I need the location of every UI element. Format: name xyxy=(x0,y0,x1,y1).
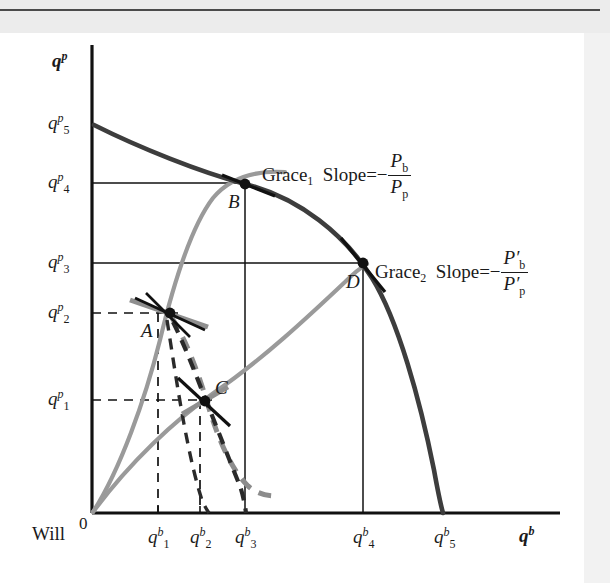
grace1-name: Grace xyxy=(262,164,307,185)
point-marker-a[interactable] xyxy=(165,308,176,319)
x-tick-label-qb4: qb4 xyxy=(353,526,375,550)
y-axis-title: qp xyxy=(52,50,68,70)
point-marker-d[interactable] xyxy=(358,258,369,269)
dashed-gray-curve-outer xyxy=(172,318,275,496)
point-label-b: B xyxy=(228,192,240,211)
point-markers-group xyxy=(165,179,369,407)
annotation-grace1: Grace1 Slope=−PbPp xyxy=(262,152,411,201)
grace2-subscript: 2 xyxy=(420,271,426,285)
x-tick-label-qb2: qb2 xyxy=(190,526,212,550)
point-marker-b[interactable] xyxy=(240,179,251,190)
grace2-denominator: P′p xyxy=(501,273,529,297)
y-tick-label-qp2: qp2 xyxy=(48,301,70,325)
grace2-name: Grace xyxy=(375,261,420,282)
gray-curve-through-a-b xyxy=(93,172,285,512)
dashed-dark-curve-inner xyxy=(167,320,209,513)
x-tick-label-qb1: qb1 xyxy=(148,526,170,550)
origin-label: 0 xyxy=(79,515,88,532)
corner-label-will: Will xyxy=(32,524,65,543)
grace2-numerator: P′b xyxy=(501,248,529,273)
grace1-subscript: 1 xyxy=(307,174,313,188)
y-tick-label-qp1: qp1 xyxy=(48,388,70,412)
point-label-a: A xyxy=(141,321,153,340)
page-canvas: qp qb 0 Will qp1 qp2 qp3 qp4 qp5 qb1 qb2… xyxy=(0,0,610,583)
grace1-denominator: Pp xyxy=(388,176,412,200)
y-tick-label-qp4: qp4 xyxy=(48,171,70,195)
grace1-fraction: PbPp xyxy=(388,151,412,200)
annotation-grace2: Grace2 Slope=−P′bP′p xyxy=(375,249,528,298)
point-label-c: C xyxy=(215,378,228,397)
grace1-numerator: Pb xyxy=(388,151,412,176)
grace1-slope-text: Slope=− xyxy=(323,164,388,185)
y-tick-label-qp3: qp3 xyxy=(48,251,70,275)
y-tick-label-qp5: qp5 xyxy=(48,112,70,136)
x-tick-label-qb3: qb3 xyxy=(235,526,257,550)
grace2-slope-text: Slope=− xyxy=(436,261,501,282)
x-axis-title: qb xyxy=(519,525,535,545)
x-tick-label-qb5: qb5 xyxy=(434,526,456,550)
grace2-fraction: P′bP′p xyxy=(501,248,529,297)
point-marker-c[interactable] xyxy=(200,396,211,407)
point-label-d: D xyxy=(346,272,360,291)
